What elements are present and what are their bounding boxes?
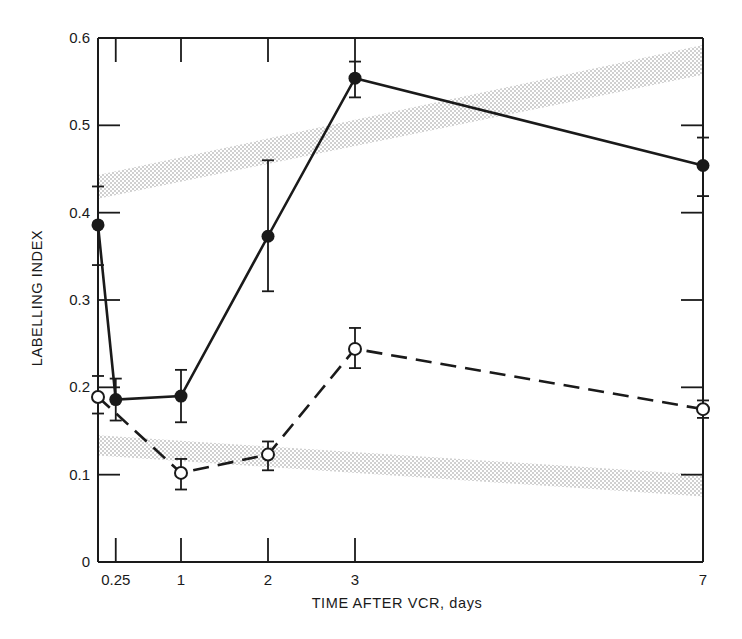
upper-stipple-band bbox=[98, 45, 703, 199]
filled-circle-marker bbox=[262, 230, 275, 243]
filled-circle-marker bbox=[697, 159, 710, 172]
axis-labels: 00.10.20.30.40.50.60.251237TIME AFTER VC… bbox=[29, 29, 707, 611]
x-tick-label: 7 bbox=[699, 571, 707, 588]
x-tick-label: 0.25 bbox=[101, 571, 130, 588]
x-tick-label: 2 bbox=[264, 571, 272, 588]
open-circle-marker bbox=[349, 343, 361, 355]
filled-circle-marker bbox=[175, 390, 188, 403]
labelling-index-chart: 00.10.20.30.40.50.60.251237TIME AFTER VC… bbox=[0, 0, 742, 639]
reference-bands bbox=[98, 45, 703, 497]
x-tick-label: 3 bbox=[351, 571, 359, 588]
y-tick-label: 0.1 bbox=[69, 466, 90, 483]
y-tick-label: 0.6 bbox=[69, 29, 90, 46]
y-tick-label: 0 bbox=[82, 553, 90, 570]
y-tick-label: 0.3 bbox=[69, 291, 90, 308]
filled-circle-marker bbox=[349, 72, 362, 85]
filled-circle-marker bbox=[109, 393, 122, 406]
filled-circle-marker bbox=[92, 218, 105, 231]
y-tick-label: 0.4 bbox=[69, 204, 90, 221]
open-circle-marker bbox=[262, 449, 274, 461]
x-tick-label: 1 bbox=[177, 571, 185, 588]
lower-stipple-band bbox=[98, 435, 703, 496]
open-circle-marker bbox=[697, 403, 709, 415]
open-circle-marker bbox=[92, 391, 104, 403]
y-tick-label: 0.5 bbox=[69, 116, 90, 133]
y-tick-label: 0.2 bbox=[69, 378, 90, 395]
open-circle-marker bbox=[175, 467, 187, 479]
x-axis-title: TIME AFTER VCR, days bbox=[312, 595, 483, 611]
y-axis-title: LABELLING INDEX bbox=[29, 230, 45, 366]
